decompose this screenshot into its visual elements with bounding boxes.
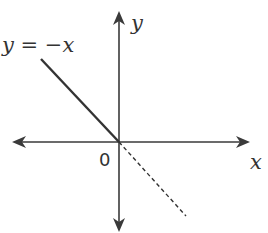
solid-line-segment xyxy=(41,59,119,142)
dashed-line-segment xyxy=(119,142,186,216)
graph-y-equals-negative-x: y = −x y x 0 xyxy=(0,0,268,233)
function-label: y = −x xyxy=(2,35,74,56)
origin-label: 0 xyxy=(99,151,110,169)
x-axis xyxy=(12,136,250,148)
x-axis-label: x xyxy=(250,152,262,173)
y-axis xyxy=(113,11,125,232)
y-axis-label: y xyxy=(131,13,143,34)
